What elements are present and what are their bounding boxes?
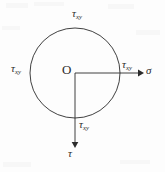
tau-subscript: xy — [15, 68, 21, 75]
label-origin: O — [62, 63, 71, 76]
label-tau-xy-right: τxy — [122, 59, 132, 72]
tau-axis-arrowhead-icon — [72, 142, 79, 148]
label-tau-xy-bottom: τxy — [79, 119, 89, 132]
mohr-circle-canvas — [0, 0, 165, 172]
tau-subscript: xy — [76, 13, 82, 20]
mohr-circle-figure: τxy τxy τxy τxy O σ τ — [0, 0, 165, 172]
label-sigma-axis: σ — [146, 65, 151, 76]
label-tau-xy-top: τxy — [72, 8, 82, 21]
label-tau-axis: τ — [68, 148, 72, 159]
label-tau-xy-left: τxy — [11, 63, 21, 76]
tau-subscript: xy — [83, 124, 89, 131]
tau-subscript: xy — [126, 64, 132, 71]
sigma-axis-arrowhead-icon — [138, 70, 144, 77]
